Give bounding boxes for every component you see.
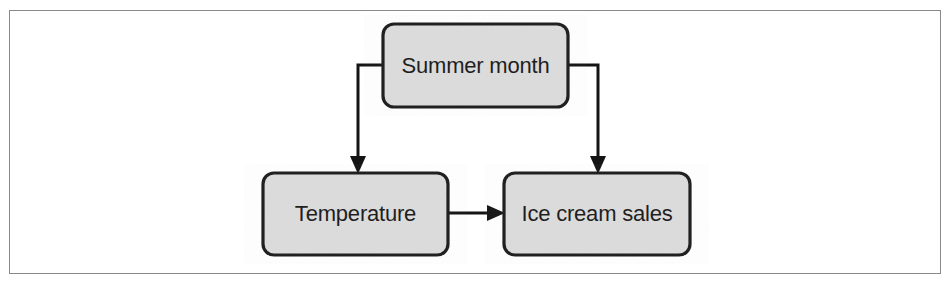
edge-summer-month-to-ice-cream-sales: [568, 65, 606, 174]
edge-summer-month-to-ice-cream-sales-arrowhead: [590, 156, 606, 174]
edge-temperature-to-ice-cream-sales: [448, 205, 505, 221]
node-ice-cream-sales[interactable]: Ice cream sales: [504, 173, 690, 255]
edge-summer-month-to-ice-cream-sales-line: [568, 65, 598, 160]
edge-temperature-to-ice-cream-sales-arrowhead: [487, 205, 505, 221]
node-temperature-label: Temperature: [295, 201, 416, 226]
node-summer-month[interactable]: Summer month: [383, 24, 568, 107]
node-temperature[interactable]: Temperature: [263, 173, 448, 255]
edge-summer-month-to-temperature-line: [358, 65, 383, 160]
node-ice-cream-sales-label: Ice cream sales: [521, 201, 672, 226]
edge-summer-month-to-temperature-arrowhead: [350, 156, 366, 174]
figure-canvas: Summer month Temperature Ice cream sales: [0, 0, 951, 286]
node-summer-month-label: Summer month: [402, 53, 550, 78]
causal-diagram: Summer month Temperature Ice cream sales: [0, 0, 951, 286]
edge-summer-month-to-temperature: [350, 65, 383, 174]
